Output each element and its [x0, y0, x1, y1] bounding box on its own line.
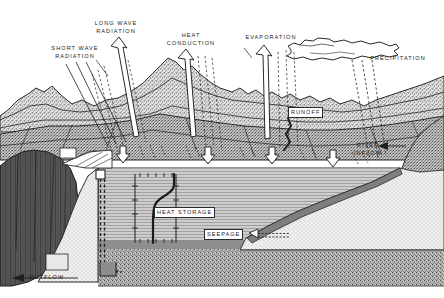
label-runoff: RUNOFF	[288, 107, 323, 118]
label-evaporation: EVAPORATION	[239, 34, 303, 42]
label-heat-storage: HEAT STORAGE	[154, 207, 215, 218]
label-outflow: OUTFLOW	[29, 274, 64, 282]
penstock-outlet	[100, 262, 116, 276]
label-long-wave-radiation: LONG WAVE RADIATION	[84, 20, 148, 35]
label-river-inflow: RIVER INFLOW	[349, 142, 387, 157]
lake-bottom-sediment	[98, 240, 250, 249]
bedrock-under-reservoir	[98, 249, 240, 286]
bedrock-layer	[240, 250, 444, 286]
label-precipitation: PRECIPITATION	[362, 55, 434, 63]
label-heat-conduction: HEAT CONDUCTION	[160, 32, 222, 47]
label-short-wave-radiation: SHORT WAVE RADIATION	[42, 45, 108, 60]
diagram-canvas: LONG WAVE RADIATION SHORT WAVE RADIATION…	[0, 0, 444, 298]
label-seepage: SEEPAGE	[204, 229, 243, 240]
intake-tower	[96, 170, 105, 179]
